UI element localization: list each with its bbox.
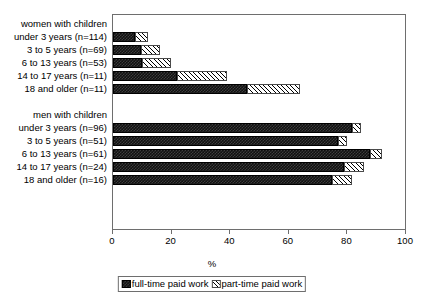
bar-segment-part-time: [177, 71, 227, 81]
bar-segment-full-time: [113, 71, 177, 81]
bar-segment-part-time: [247, 84, 300, 94]
table-row: 14 to 17 years (n=24): [0, 160, 424, 173]
stacked-bar: [113, 175, 352, 185]
stacked-bar: [113, 162, 364, 172]
bar-segment-part-time: [344, 162, 364, 172]
x-axis-title: %: [0, 258, 424, 269]
bar-segment-full-time: [113, 149, 370, 159]
x-axis-tick: [405, 230, 406, 234]
legend-swatch-part-time-icon: [211, 280, 220, 288]
x-axis-tick-label: 20: [165, 235, 176, 246]
table-row: 6 to 13 years (n=53): [0, 56, 424, 69]
bar-segment-part-time: [141, 45, 160, 55]
x-axis-tick: [112, 230, 113, 234]
table-row: 6 to 13 years (n=61): [0, 147, 424, 160]
bar-segment-full-time: [113, 32, 135, 42]
x-axis-tick-label: 100: [397, 235, 413, 246]
category-label: 3 to 5 years (n=69): [0, 43, 107, 56]
legend-swatch-full-time-icon: [122, 280, 131, 288]
stacked-bar: [113, 136, 347, 146]
group-header-label: men with children: [0, 108, 107, 121]
bar-segment-full-time: [113, 175, 332, 185]
stacked-bar: [113, 71, 227, 81]
x-axis-tick: [288, 230, 289, 234]
table-row: 14 to 17 years (n=11): [0, 69, 424, 82]
x-axis-tick-label: 60: [283, 235, 294, 246]
table-row: 18 and older (n=11): [0, 82, 424, 95]
bar-segment-part-time: [142, 58, 171, 68]
stacked-bar: [113, 32, 148, 42]
stacked-bar: [113, 84, 300, 94]
category-label: 6 to 13 years (n=53): [0, 56, 107, 69]
bar-segment-full-time: [113, 58, 142, 68]
bar-chart: women with childrenunder 3 years (n=114)…: [0, 0, 424, 302]
stacked-bar: [113, 45, 160, 55]
table-row: 3 to 5 years (n=51): [0, 134, 424, 147]
x-axis-tick-label: 40: [224, 235, 235, 246]
category-label: 18 and older (n=16): [0, 173, 107, 186]
group-header-row: men with children: [0, 108, 424, 121]
category-label: 3 to 5 years (n=51): [0, 134, 107, 147]
x-axis-tick: [346, 230, 347, 234]
bar-segment-part-time: [135, 32, 148, 42]
bar-segment-part-time: [370, 149, 382, 159]
legend-item-part-time: part-time paid work: [208, 278, 302, 290]
bar-segment-part-time: [332, 175, 352, 185]
legend-item-full-time: full-time paid work: [122, 278, 209, 290]
bar-segment-part-time: [338, 136, 347, 146]
group-header-label: women with children: [0, 17, 107, 30]
table-row: under 3 years (n=96): [0, 121, 424, 134]
bar-segment-full-time: [113, 136, 338, 146]
row-spacer: [0, 95, 424, 108]
stacked-bar: [113, 149, 382, 159]
category-label: 14 to 17 years (n=11): [0, 69, 107, 82]
category-label: 18 and older (n=11): [0, 82, 107, 95]
stacked-bar: [113, 123, 361, 133]
table-row: 3 to 5 years (n=69): [0, 43, 424, 56]
legend-label-full-time: full-time paid work: [132, 278, 209, 290]
x-axis: 020406080100: [112, 230, 406, 256]
legend-label-part-time: part-time paid work: [221, 278, 302, 290]
category-label: under 3 years (n=96): [0, 121, 107, 134]
stacked-bar: [113, 58, 171, 68]
table-row: 18 and older (n=16): [0, 173, 424, 186]
chart-rows: women with childrenunder 3 years (n=114)…: [0, 14, 424, 230]
category-label: under 3 years (n=114): [0, 30, 107, 43]
x-axis-tick-label: 0: [109, 235, 114, 246]
group-header-row: women with children: [0, 17, 424, 30]
x-axis-tick-label: 80: [341, 235, 352, 246]
category-label: 14 to 17 years (n=24): [0, 160, 107, 173]
bar-segment-part-time: [352, 123, 361, 133]
table-row: under 3 years (n=114): [0, 30, 424, 43]
chart-legend: full-time paid work part-time paid work: [118, 276, 306, 292]
x-axis-tick: [229, 230, 230, 234]
bar-segment-full-time: [113, 123, 352, 133]
x-axis-tick: [171, 230, 172, 234]
bar-segment-full-time: [113, 84, 247, 94]
category-label: 6 to 13 years (n=61): [0, 147, 107, 160]
bar-segment-full-time: [113, 162, 344, 172]
bar-segment-full-time: [113, 45, 141, 55]
